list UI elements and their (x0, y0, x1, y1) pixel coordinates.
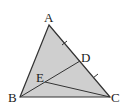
tick-mark-dc (93, 74, 98, 78)
label-a: A (44, 10, 54, 25)
label-e: E (36, 70, 44, 85)
label-d: D (81, 50, 90, 65)
triangle-diagram: A B C D E (0, 0, 129, 112)
label-c: C (111, 90, 120, 105)
label-b: B (8, 90, 17, 105)
